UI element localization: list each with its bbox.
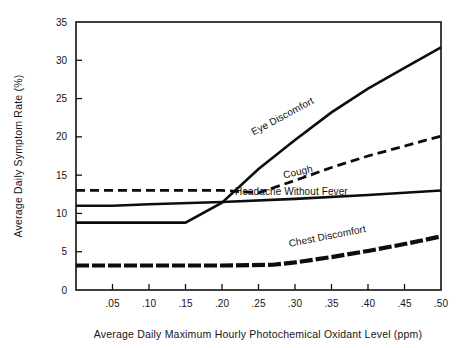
y-tick-label: 0 [61,285,67,296]
series-label-headache-without-fever: Headache Without Fever [235,186,348,197]
x-tick-label: .45 [398,298,412,309]
x-tick-label: .15 [179,298,193,309]
x-tick-label: .25 [252,298,266,309]
x-axis: .05.10.15.20.25.30.35.40.45.50 [106,284,449,309]
y-tick-label: 35 [56,17,68,28]
chart-figure: 05101520253035 .05.10.15.20.25.30.35.40.… [0,0,474,348]
x-axis-title: Average Daily Maximum Hourly Photochemic… [94,328,423,340]
series-line-cough [76,136,441,193]
plot-frame [76,22,441,290]
symptom-rate-line-chart: 05101520253035 .05.10.15.20.25.30.35.40.… [0,0,474,348]
y-tick-label: 15 [56,170,68,181]
x-tick-label: .10 [142,298,156,309]
x-tick-label: .35 [325,298,339,309]
y-axis: 05101520253035 [56,17,82,296]
y-axis-title: Average Daily Symptom Rate (%) [12,75,24,238]
series-label-chest-discomfort: Chest Discomfort [288,223,367,249]
x-tick-label: .40 [361,298,375,309]
plot-border [76,22,441,290]
x-tick-label: .05 [106,298,120,309]
series-label-cough: Cough [282,163,314,180]
y-tick-label: 5 [61,246,67,257]
x-tick-label: .20 [215,298,229,309]
y-tick-label: 25 [56,93,68,104]
y-tick-label: 30 [56,55,68,66]
y-tick-label: 20 [56,131,68,142]
x-tick-label: .30 [288,298,302,309]
data-series-layer [76,47,441,265]
y-tick-label: 10 [56,208,68,219]
series-line-chest-discomfort [76,236,441,265]
x-tick-label: .50 [434,298,448,309]
